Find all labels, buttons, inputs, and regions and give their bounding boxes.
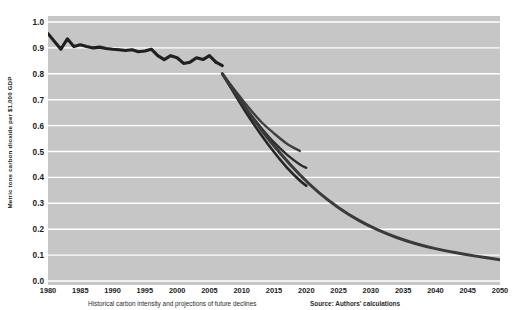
y-axis-tick-label: 0.9	[33, 43, 44, 52]
x-axis-tick-label: 2035	[395, 286, 411, 295]
y-axis-tick-label: 1.0	[33, 18, 44, 27]
footer-source: Source: Authors' calculations	[310, 300, 400, 307]
footer-note: Historical carbon intensity and projecti…	[88, 300, 256, 307]
y-axis-tick-label: 0.7	[33, 95, 44, 104]
data-series-line	[222, 74, 500, 260]
chart-figure: Metric tons carbon dioxide per $1,000 GD…	[0, 0, 512, 310]
y-axis-tick-labels: 0.00.10.20.30.40.50.60.70.80.91.0	[18, 0, 48, 285]
x-axis-tick-label: 2005	[201, 286, 217, 295]
x-axis-tick-label: 2040	[427, 286, 443, 295]
x-axis-tick-label: 2010	[233, 286, 249, 295]
y-axis-tick-label: 0.8	[33, 69, 44, 78]
x-axis-tick-label: 2020	[298, 286, 314, 295]
x-axis-tick-label: 2025	[330, 286, 346, 295]
x-axis-tick-label: 2050	[492, 286, 508, 295]
x-axis-tick-label: 2045	[459, 286, 475, 295]
x-axis-tick-label: 2000	[169, 286, 185, 295]
chart-canvas	[48, 16, 500, 285]
y-axis-tick-label: 0.4	[33, 173, 44, 182]
y-axis-title: Metric tons carbon dioxide per $1,000 GD…	[0, 0, 18, 285]
x-axis-tick-label: 2015	[266, 286, 282, 295]
y-axis-tick-label: 0.6	[33, 121, 44, 130]
chart-footer: Historical carbon intensity and projecti…	[48, 300, 500, 310]
y-axis-title-text: Metric tons carbon dioxide per $1,000 GD…	[6, 77, 13, 209]
data-series-line	[222, 74, 306, 168]
data-series-group	[48, 34, 500, 260]
y-axis-tick-label: 0.3	[33, 199, 44, 208]
y-axis-tick-label: 0.5	[33, 147, 44, 156]
data-series-line	[222, 74, 299, 151]
x-axis-tick-labels: 1980198519901995200020052010201520202025…	[48, 286, 500, 299]
x-axis-tick-label: 2030	[363, 286, 379, 295]
x-axis-tick-label: 1980	[40, 286, 56, 295]
x-axis-tick-label: 1995	[137, 286, 153, 295]
x-axis-tick-label: 1990	[104, 286, 120, 295]
x-axis-tick-label: 1985	[72, 286, 88, 295]
plot-area	[48, 16, 500, 285]
y-axis-tick-label: 0.2	[33, 225, 44, 234]
data-series-line	[216, 62, 222, 65]
y-axis-tick-label: 0.1	[33, 251, 44, 260]
y-axis-tick-label: 0.0	[33, 277, 44, 286]
